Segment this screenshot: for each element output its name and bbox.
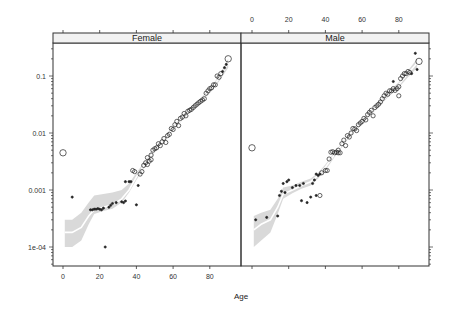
data-point — [291, 187, 293, 189]
x-tick-label: 20 — [96, 273, 104, 280]
data-point — [60, 150, 66, 156]
data-point — [392, 80, 394, 82]
data-point — [137, 184, 139, 186]
y-tick-label: 0.01 — [32, 130, 46, 137]
data-point — [312, 182, 314, 184]
smooth-line — [254, 63, 417, 230]
x-tick-label: 80 — [206, 273, 214, 280]
data-point — [282, 182, 284, 184]
x-tick-label: 40 — [133, 273, 141, 280]
data-point — [288, 179, 290, 181]
data-point — [71, 196, 73, 198]
data-point — [315, 194, 317, 196]
strip-label: Male — [325, 33, 345, 43]
data-point — [300, 200, 302, 202]
data-point — [416, 68, 418, 70]
x-tick-label: 60 — [358, 16, 366, 23]
confidence-band — [65, 59, 228, 247]
data-point — [306, 202, 308, 204]
data-point — [222, 70, 224, 72]
x-tick-label: 0 — [250, 16, 254, 23]
data-point — [124, 181, 126, 183]
data-point — [284, 192, 286, 194]
data-point — [397, 94, 401, 98]
y-tick-label: 0.001 — [28, 187, 46, 194]
data-point — [108, 206, 110, 208]
x-tick-label: 80 — [395, 16, 403, 23]
x-tick-label: 60 — [169, 273, 177, 280]
data-point — [130, 181, 132, 183]
data-point — [249, 145, 255, 151]
data-point — [255, 219, 257, 221]
data-point — [299, 184, 301, 186]
strip-label: Female — [132, 33, 162, 43]
data-point — [266, 216, 268, 218]
data-point — [115, 202, 117, 204]
data-point — [302, 182, 304, 184]
data-point — [278, 194, 280, 196]
chart-axes: 0204060800204060800.10.010.0011e-04 — [28, 16, 433, 280]
data-point — [411, 73, 413, 75]
data-point — [414, 52, 416, 54]
chart-panels: FemaleMale — [53, 33, 429, 266]
mortality-trellis-chart: FemaleMale 0204060800204060800.10.010.00… — [0, 0, 453, 312]
data-point — [135, 204, 137, 206]
data-point — [111, 202, 113, 204]
panel-female: Female — [53, 33, 241, 266]
data-point — [225, 63, 227, 65]
data-point — [104, 246, 106, 248]
data-point — [344, 144, 348, 148]
y-tick-label: 0.1 — [36, 73, 46, 80]
panel-male: Male — [241, 33, 429, 266]
data-point — [280, 190, 282, 192]
data-point — [295, 184, 297, 186]
y-tick-label: 1e-04 — [28, 244, 46, 251]
data-point — [310, 196, 312, 198]
x-axis-label: Age — [234, 292, 249, 301]
x-tick-label: 0 — [61, 273, 65, 280]
data-point — [277, 215, 279, 217]
data-point — [371, 114, 375, 118]
data-point — [102, 207, 104, 209]
data-point — [124, 200, 126, 202]
data-point — [110, 204, 112, 206]
data-point — [318, 193, 322, 197]
data-point — [223, 67, 225, 69]
x-tick-label: 40 — [322, 16, 330, 23]
x-tick-label: 20 — [285, 16, 293, 23]
data-point — [313, 179, 315, 181]
